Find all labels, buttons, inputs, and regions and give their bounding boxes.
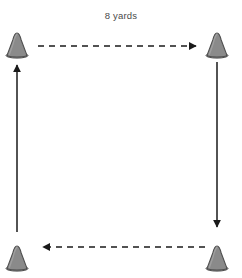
- drill-diagram: 8 yards: [0, 0, 242, 278]
- cone-top-left-icon: [6, 33, 28, 58]
- cone-bottom-right-icon: [206, 246, 228, 271]
- cone-bottom-left-icon: [6, 246, 28, 271]
- drill-diagram-canvas: [0, 0, 242, 278]
- cone-top-right-icon: [206, 33, 228, 58]
